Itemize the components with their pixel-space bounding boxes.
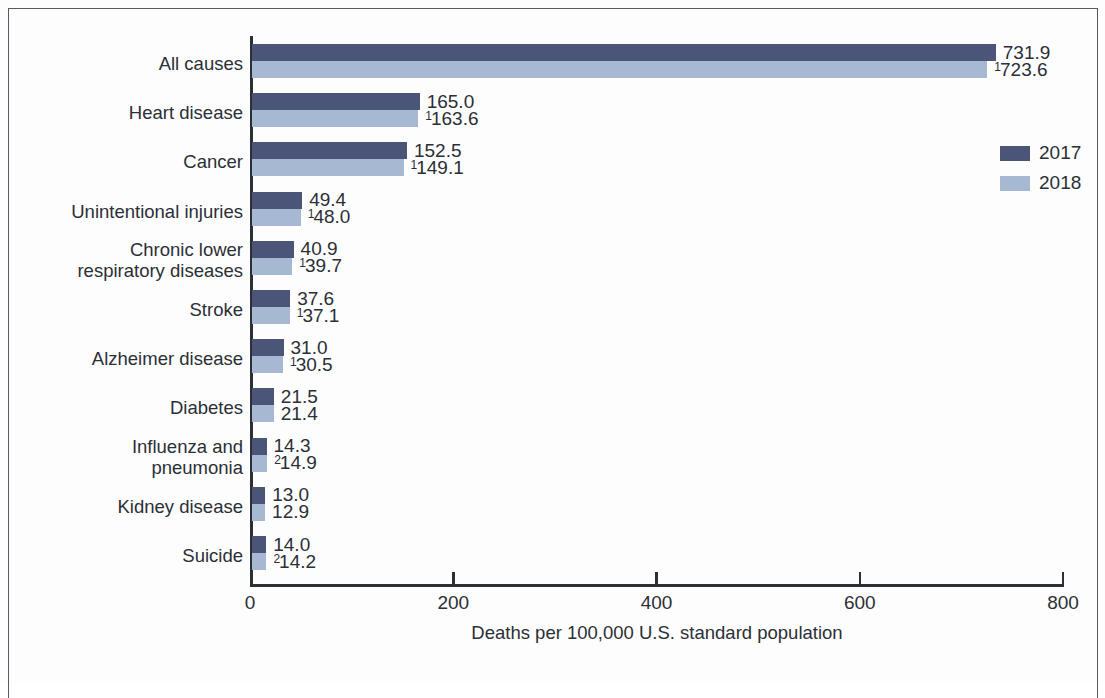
- legend-swatch: [1000, 176, 1030, 191]
- bar-2017: [252, 93, 420, 110]
- bar-group: Chronic lower respiratory diseases40.913…: [0, 241, 1105, 285]
- bar-2018: [252, 209, 301, 226]
- bar-2017: [252, 142, 407, 159]
- category-label: Heart disease: [0, 102, 243, 123]
- bar-2018: [252, 61, 987, 78]
- bar-2017: [252, 487, 265, 504]
- footnote-marker: 2: [273, 552, 280, 566]
- bar-2018: [252, 405, 274, 422]
- bar-2018: [252, 455, 267, 472]
- bar-group: Diabetes21.521.4: [0, 388, 1105, 432]
- bar-2018: [252, 258, 292, 275]
- bar-group: Cancer152.51149.1: [0, 142, 1105, 186]
- bar-group: Heart disease165.01163.6: [0, 93, 1105, 137]
- bar-value-label: 21.4: [274, 403, 318, 425]
- category-label: Unintentional injuries: [0, 201, 243, 222]
- category-label: All causes: [0, 53, 243, 74]
- bar-group: Kidney disease13.012.9: [0, 487, 1105, 531]
- bar-value-label: 12.9: [265, 501, 309, 523]
- bar-value-label: 214.2: [266, 551, 316, 573]
- category-label: Kidney disease: [0, 496, 243, 517]
- bar-value-label: 139.7: [292, 255, 342, 277]
- category-label: Cancer: [0, 151, 243, 172]
- bar-value-label: 1163.6: [418, 108, 478, 130]
- bar-group: All causes731.91723.6: [0, 44, 1105, 88]
- category-label: Suicide: [0, 545, 243, 566]
- bar-2018: [252, 307, 290, 324]
- bar-2017: [252, 438, 267, 455]
- bar-2018: [252, 110, 418, 127]
- bar-2017: [252, 44, 996, 61]
- footnote-marker: 1: [308, 207, 315, 221]
- bar-group: Stroke37.6137.1: [0, 290, 1105, 334]
- bar-group: Suicide14.0214.2: [0, 536, 1105, 580]
- chart-legend: 20172018: [1000, 140, 1081, 200]
- category-label: Diabetes: [0, 397, 243, 418]
- x-axis-title: Deaths per 100,000 U.S. standard populat…: [250, 622, 1064, 644]
- footnote-marker: 1: [299, 256, 306, 270]
- category-label: Influenza and pneumonia: [0, 436, 243, 478]
- bar-2017: [252, 241, 294, 258]
- footnote-marker: 1: [297, 306, 304, 320]
- bar-2017: [252, 290, 290, 307]
- category-label: Chronic lower respiratory diseases: [0, 239, 243, 281]
- bar-group: Alzheimer disease31.0130.5: [0, 339, 1105, 383]
- bar-value-label: 130.5: [283, 354, 333, 376]
- footnote-marker: 2: [274, 453, 281, 467]
- legend-swatch: [1000, 146, 1030, 161]
- bar-2017: [252, 388, 274, 405]
- bar-2018: [252, 356, 283, 373]
- x-axis-tick-600: [859, 572, 862, 585]
- bar-value-label: 1149.1: [404, 157, 464, 179]
- legend-item-2017: 2017: [1000, 140, 1081, 166]
- category-label: Stroke: [0, 299, 243, 320]
- bar-value-label: 148.0: [301, 206, 351, 228]
- bar-2017: [252, 339, 284, 356]
- footnote-marker: 1: [290, 355, 297, 369]
- x-axis-tick-label-400: 400: [641, 592, 673, 614]
- x-axis-tick-label-0: 0: [245, 592, 256, 614]
- footnote-marker: 1: [994, 60, 1001, 74]
- bar-value-label: 137.1: [290, 305, 340, 327]
- bar-value-label: 1723.6: [987, 59, 1047, 81]
- legend-item-2018: 2018: [1000, 170, 1081, 196]
- legend-label: 2018: [1039, 172, 1081, 194]
- bar-group: Influenza and pneumonia14.3214.9: [0, 438, 1105, 482]
- bar-2018: [252, 504, 265, 521]
- bar-group: Unintentional injuries49.4148.0: [0, 192, 1105, 236]
- x-axis-tick-label-800: 800: [1047, 592, 1079, 614]
- footnote-marker: 1: [425, 109, 432, 123]
- x-axis-tick-200: [452, 572, 455, 585]
- x-axis-tick-label-200: 200: [437, 592, 469, 614]
- bar-2017: [252, 192, 302, 209]
- category-label: Alzheimer disease: [0, 348, 243, 369]
- legend-label: 2017: [1039, 142, 1081, 164]
- footnote-marker: 1: [411, 158, 418, 172]
- x-axis-tick-400: [655, 572, 658, 585]
- bar-2018: [252, 553, 266, 570]
- bar-2018: [252, 159, 404, 176]
- x-axis-tick-label-600: 600: [844, 592, 876, 614]
- bar-2017: [252, 536, 266, 553]
- bar-value-label: 214.9: [267, 452, 317, 474]
